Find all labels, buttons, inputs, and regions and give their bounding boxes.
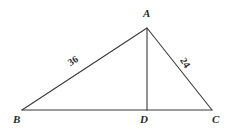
vertex-label-b: B bbox=[13, 114, 20, 125]
vertex-label-d: D bbox=[140, 114, 148, 125]
segment-side-AC bbox=[147, 28, 212, 110]
geometry-figure: A B C D 36 24 bbox=[0, 0, 236, 133]
vertex-label-c: C bbox=[212, 114, 219, 125]
vertex-label-a: A bbox=[143, 8, 150, 19]
triangle-diagram-svg bbox=[0, 0, 236, 133]
segment-side-BA bbox=[22, 28, 147, 110]
